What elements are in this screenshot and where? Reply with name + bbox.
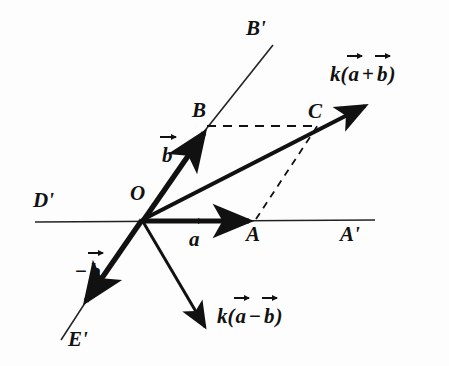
minus-sign: − xyxy=(73,259,89,283)
over-arrow-icon xyxy=(262,297,278,299)
over-arrow-icon xyxy=(88,252,104,254)
vector-b-glyph: b xyxy=(161,145,174,166)
point-label-c: C xyxy=(308,101,322,122)
vector-label-b: b xyxy=(161,145,174,166)
over-arrow-icon xyxy=(234,297,250,299)
axis-label-a-prime: A' xyxy=(340,224,360,245)
over-arrow-icon xyxy=(347,55,363,57)
ray-k-a-plus-b xyxy=(142,106,365,220)
minus-sign: − xyxy=(247,304,263,328)
vector-label-a: a xyxy=(188,229,201,250)
vector-b-arrow xyxy=(143,133,204,221)
axis-label-d-prime: D' xyxy=(33,190,54,211)
point-label-b: B xyxy=(192,100,206,121)
vector-b-glyph: b xyxy=(89,261,102,282)
axis-label-e-prime: E' xyxy=(68,329,88,350)
over-arrow-icon xyxy=(375,55,391,57)
over-arrow-icon xyxy=(187,220,203,222)
over-arrow-icon xyxy=(160,136,176,138)
point-label-a: A xyxy=(246,224,260,245)
point-label-o: O xyxy=(130,183,145,204)
vector-b-glyph: b xyxy=(263,306,276,327)
expression-label-k-a-minus-b: k(a−b) xyxy=(217,306,282,327)
vector-diagram-figure: O A B C D' A' B' E' a b −b k(a+b) k(a−b) xyxy=(0,0,449,366)
b-prime-extension-line xyxy=(203,45,273,133)
vector-a-glyph: a xyxy=(188,229,201,250)
dashed-line-a-to-c xyxy=(256,125,318,219)
axis-label-b-prime: B' xyxy=(246,18,266,39)
vector-label-neg-b: −b xyxy=(73,261,101,282)
vector-a-glyph: a xyxy=(235,306,248,327)
expression-label-k-a-plus-b: k(a+b) xyxy=(330,64,395,85)
vector-b-glyph: b xyxy=(376,64,389,85)
vector-a-glyph: a xyxy=(348,64,361,85)
plus-sign: + xyxy=(360,62,376,86)
